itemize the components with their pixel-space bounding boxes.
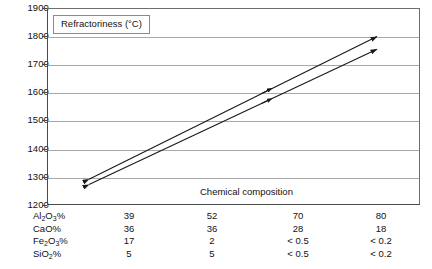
cell-fe2o3-col2: 2	[182, 235, 242, 247]
trend-lines-group	[48, 9, 421, 206]
refractoriness-chart-figure: 1900 1800 1700 1600 1500 1400 1300 1200	[0, 0, 432, 269]
plot-area: Refractoriness (°C) Chemical composition	[47, 8, 420, 205]
cell-sio2-col1: 5	[99, 248, 159, 260]
cell-sio2-col3: < 0.5	[268, 248, 328, 260]
trend-line-upper-mid-arrow	[262, 89, 270, 93]
row-label-al2o3: Al2O3%	[33, 210, 65, 223]
composition-table: Al2O3% 39 52 70 80 CaO% 36 36 28 18 Fe2O…	[0, 210, 432, 266]
row-label-cao: CaO%	[33, 223, 61, 236]
table-row: CaO% 36 36 28 18	[0, 223, 432, 235]
row-label-sio2: SiO2%	[33, 248, 61, 261]
cell-fe2o3-col4: < 0.2	[351, 235, 411, 247]
cell-fe2o3-col3: < 0.5	[268, 235, 328, 247]
trend-line-lower-mid-arrow	[262, 100, 270, 104]
cell-al2o3-col2: 52	[182, 210, 242, 222]
cell-al2o3-col1: 39	[99, 210, 159, 222]
cell-cao-col1: 36	[99, 223, 159, 235]
table-row: SiO2% 5 5 < 0.5 < 0.2	[0, 248, 432, 260]
cell-sio2-col2: 5	[182, 248, 242, 260]
cell-fe2o3-col1: 17	[99, 235, 159, 247]
cell-cao-col2: 36	[182, 223, 242, 235]
cell-cao-col4: 18	[351, 223, 411, 235]
cell-cao-col3: 28	[268, 223, 328, 235]
trend-line-lower	[89, 49, 377, 184]
cell-sio2-col4: < 0.2	[351, 248, 411, 260]
table-row: Al2O3% 39 52 70 80	[0, 210, 432, 222]
table-row: Fe2O3% 17 2 < 0.5 < 0.2	[0, 235, 432, 247]
plot-wrapper: 1900 1800 1700 1600 1500 1400 1300 1200	[0, 8, 432, 213]
cell-al2o3-col4: 80	[351, 210, 411, 222]
row-label-fe2o3: Fe2O3%	[33, 235, 68, 248]
cell-al2o3-col3: 70	[268, 210, 328, 222]
trend-line-upper	[89, 37, 377, 180]
